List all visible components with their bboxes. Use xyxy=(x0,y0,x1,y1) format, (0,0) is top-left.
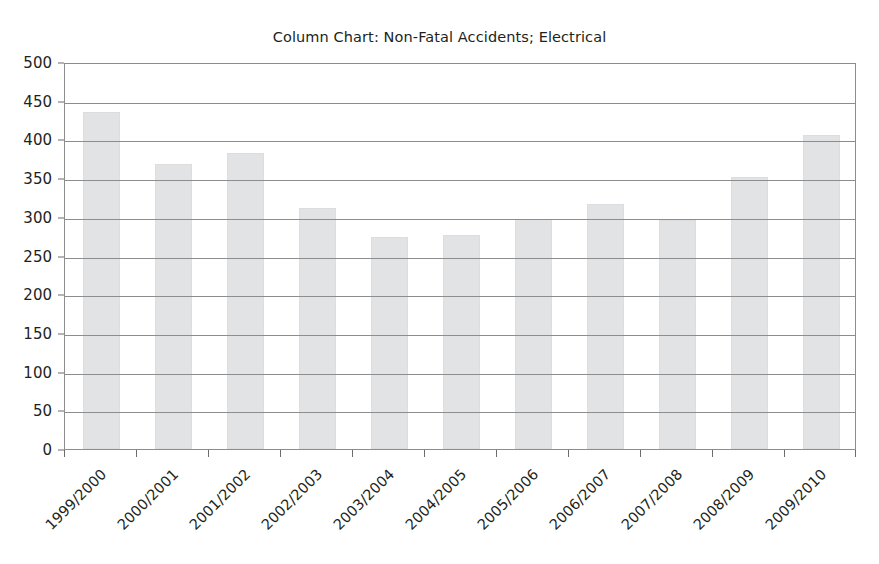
gridline xyxy=(65,412,855,413)
y-axis-tick-label: 300 xyxy=(23,209,52,227)
x-axis-tick-label: 2002/2003 xyxy=(258,466,325,533)
y-axis-tick-label: 50 xyxy=(33,402,52,420)
x-axis-tick-label: 2009/2010 xyxy=(762,466,829,533)
x-axis-tick-label: 2004/2005 xyxy=(402,466,469,533)
y-axis-tick-label: 400 xyxy=(23,131,52,149)
gridline xyxy=(65,141,855,142)
chart-container: Column Chart: Non-Fatal Accidents; Elect… xyxy=(0,0,879,564)
x-axis-tick-label: 1999/2000 xyxy=(42,466,109,533)
bar xyxy=(371,237,408,449)
bar xyxy=(803,135,840,449)
chart-title: Column Chart: Non-Fatal Accidents; Elect… xyxy=(0,29,879,45)
bars-layer xyxy=(65,64,855,449)
gridline xyxy=(65,335,855,336)
bar xyxy=(83,112,120,449)
gridline xyxy=(65,180,855,181)
gridline xyxy=(65,374,855,375)
y-axis-tick-label: 100 xyxy=(23,364,52,382)
y-axis-tick-label: 450 xyxy=(23,93,52,111)
x-axis-tick-label: 2000/2001 xyxy=(114,466,181,533)
y-axis-tick-label: 200 xyxy=(23,286,52,304)
x-axis-labels: 1999/20002000/20012001/20022002/20032003… xyxy=(0,450,879,564)
y-axis-tick-label: 350 xyxy=(23,170,52,188)
x-axis-tick-label: 2008/2009 xyxy=(690,466,757,533)
x-axis-tick-label: 2007/2008 xyxy=(618,466,685,533)
gridline xyxy=(65,103,855,104)
y-axis-tick-label: 500 xyxy=(23,54,52,72)
gridline xyxy=(65,258,855,259)
bar xyxy=(443,235,480,449)
gridline xyxy=(65,219,855,220)
x-axis-tick-label: 2006/2007 xyxy=(546,466,613,533)
x-axis-tick-label: 2005/2006 xyxy=(474,466,541,533)
y-axis-tick-label: 150 xyxy=(23,325,52,343)
bar xyxy=(155,164,192,449)
y-axis-tick-label: 250 xyxy=(23,248,52,266)
plot-area xyxy=(64,63,856,450)
bar xyxy=(227,153,264,449)
gridline xyxy=(65,296,855,297)
x-axis-tick-label: 2001/2002 xyxy=(186,466,253,533)
x-axis-tick-label: 2003/2004 xyxy=(330,466,397,533)
